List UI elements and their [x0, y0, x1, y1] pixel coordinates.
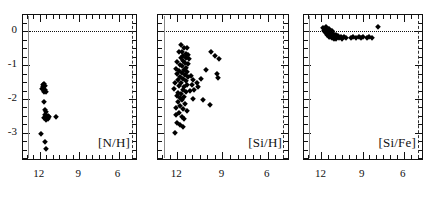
x-tick	[363, 152, 364, 159]
data-point	[369, 35, 375, 41]
y-tick	[284, 91, 288, 92]
y-tick	[284, 40, 288, 41]
x-tick	[321, 152, 322, 159]
plot-frame: [Si/H]	[157, 14, 289, 160]
x-tick	[363, 15, 364, 22]
y-tick	[418, 107, 422, 108]
y-tick	[418, 116, 422, 117]
x-tick	[260, 15, 261, 19]
x-tick	[397, 15, 398, 19]
x-tick	[335, 155, 336, 159]
x-axis-tick-label: 12	[29, 167, 49, 179]
x-tick	[222, 152, 223, 159]
data-point	[53, 114, 59, 120]
data-point	[200, 97, 206, 103]
x-tick	[46, 15, 47, 19]
y-tick	[23, 124, 27, 125]
x-tick	[99, 15, 100, 19]
x-tick	[53, 155, 54, 159]
data-point	[184, 108, 190, 114]
x-tick	[200, 155, 201, 159]
y-tick	[418, 150, 422, 151]
y-tick	[284, 158, 288, 159]
x-tick	[79, 15, 80, 22]
x-tick	[222, 15, 223, 22]
y-tick	[23, 158, 27, 159]
x-tick	[238, 15, 239, 19]
y-tick	[23, 107, 27, 108]
vertical-solid-marker-line	[309, 16, 310, 158]
x-tick	[245, 155, 246, 159]
y-tick	[158, 107, 162, 108]
y-tick	[418, 57, 422, 58]
x-tick	[356, 155, 357, 159]
y-tick	[304, 40, 308, 41]
y-tick	[418, 48, 422, 49]
x-tick	[92, 155, 93, 159]
data-point	[38, 131, 44, 137]
y-tick	[284, 150, 288, 151]
panel-label: [Si/H]	[248, 135, 282, 151]
x-tick	[376, 155, 377, 159]
y-tick	[284, 74, 288, 75]
y-tick	[304, 107, 308, 108]
panel-label: [N/H]	[98, 135, 130, 151]
y-tick	[158, 141, 162, 142]
vertical-dashed-marker-line	[418, 16, 419, 158]
x-tick	[73, 155, 74, 159]
x-tick	[342, 15, 343, 19]
vertical-solid-marker-line	[28, 16, 29, 158]
x-tick	[79, 152, 80, 159]
zero-reference-line	[24, 31, 135, 32]
x-axis-tick-label: 6	[108, 167, 128, 179]
scatter-panel-1: [N/H]	[22, 14, 137, 160]
x-tick	[253, 155, 254, 159]
x-tick	[404, 15, 405, 22]
scatter-panel-2: [Si/H]	[157, 14, 289, 160]
x-axis-tick-label: 12	[166, 167, 186, 179]
data-point	[42, 99, 48, 105]
x-tick	[86, 15, 87, 19]
x-tick	[66, 15, 67, 19]
x-tick	[112, 15, 113, 19]
data-point	[195, 84, 201, 90]
y-tick	[284, 57, 288, 58]
y-tick	[415, 65, 422, 66]
x-tick	[105, 155, 106, 159]
y-tick	[23, 57, 27, 58]
x-axis-tick-label: 9	[352, 167, 372, 179]
x-tick	[268, 152, 269, 159]
x-tick	[59, 15, 60, 19]
x-tick	[356, 15, 357, 19]
x-tick	[253, 15, 254, 19]
x-tick	[105, 15, 106, 19]
data-point	[207, 102, 213, 108]
x-axis-tick-label: 6	[257, 167, 277, 179]
x-axis-tick-label: 6	[393, 167, 413, 179]
x-tick	[328, 15, 329, 19]
y-tick	[158, 57, 162, 58]
x-tick	[404, 152, 405, 159]
y-tick	[418, 23, 422, 24]
y-tick	[418, 40, 422, 41]
y-tick	[23, 23, 27, 24]
plot-frame: [Si/Fe]	[303, 14, 423, 160]
x-tick	[383, 15, 384, 19]
y-tick	[23, 82, 27, 83]
x-tick	[86, 155, 87, 159]
y-tick	[415, 99, 422, 100]
y-tick	[158, 40, 162, 41]
x-tick	[125, 155, 126, 159]
x-tick	[275, 15, 276, 19]
y-tick	[284, 23, 288, 24]
x-tick	[238, 155, 239, 159]
figure-root: 12960-1-2-3[N/H]1296[Si/H]1296[Si/Fe]	[0, 0, 437, 198]
y-tick	[23, 65, 30, 66]
x-tick	[170, 155, 171, 159]
x-tick	[66, 155, 67, 159]
y-axis-tick-label: -1	[1, 57, 17, 69]
x-tick	[230, 155, 231, 159]
y-tick	[418, 82, 422, 83]
y-tick	[284, 124, 288, 125]
panel-label: [Si/Fe]	[378, 135, 416, 151]
